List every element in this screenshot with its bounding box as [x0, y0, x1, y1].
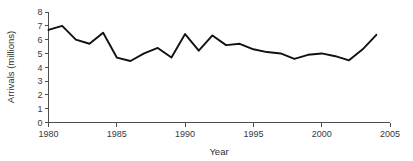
y-tick-label-7: 7: [37, 21, 42, 31]
x-tick-label-1995: 1995: [243, 129, 263, 139]
y-tick-label-5: 5: [37, 49, 42, 59]
data-series-line-arrivals: [49, 26, 377, 61]
x-tick-label-2005: 2005: [380, 129, 400, 139]
y-tick-label-8: 8: [37, 7, 42, 17]
y-axis-ticks: 012345678: [37, 7, 48, 128]
x-tick-label-1980: 1980: [38, 129, 58, 139]
screenshot-root: 012345678 198019851990199520002005 Arriv…: [0, 0, 413, 161]
x-tick-label-2000: 2000: [312, 129, 332, 139]
y-tick-label-0: 0: [37, 118, 42, 128]
y-tick-label-1: 1: [37, 104, 42, 114]
line-chart-figure: 012345678 198019851990199520002005 Arriv…: [0, 0, 413, 161]
x-axis-title: Year: [209, 146, 228, 157]
y-tick-label-4: 4: [37, 63, 42, 73]
y-tick-label-3: 3: [37, 76, 42, 86]
x-tick-label-1990: 1990: [175, 129, 195, 139]
y-tick-label-6: 6: [37, 35, 42, 45]
x-axis-ticks: 198019851990199520002005: [38, 123, 400, 139]
y-tick-label-2: 2: [37, 90, 42, 100]
chart-canvas: 012345678 198019851990199520002005 Arriv…: [0, 0, 413, 161]
y-axis-title: Arrivals (millions): [5, 31, 16, 103]
x-tick-label-1985: 1985: [107, 129, 127, 139]
